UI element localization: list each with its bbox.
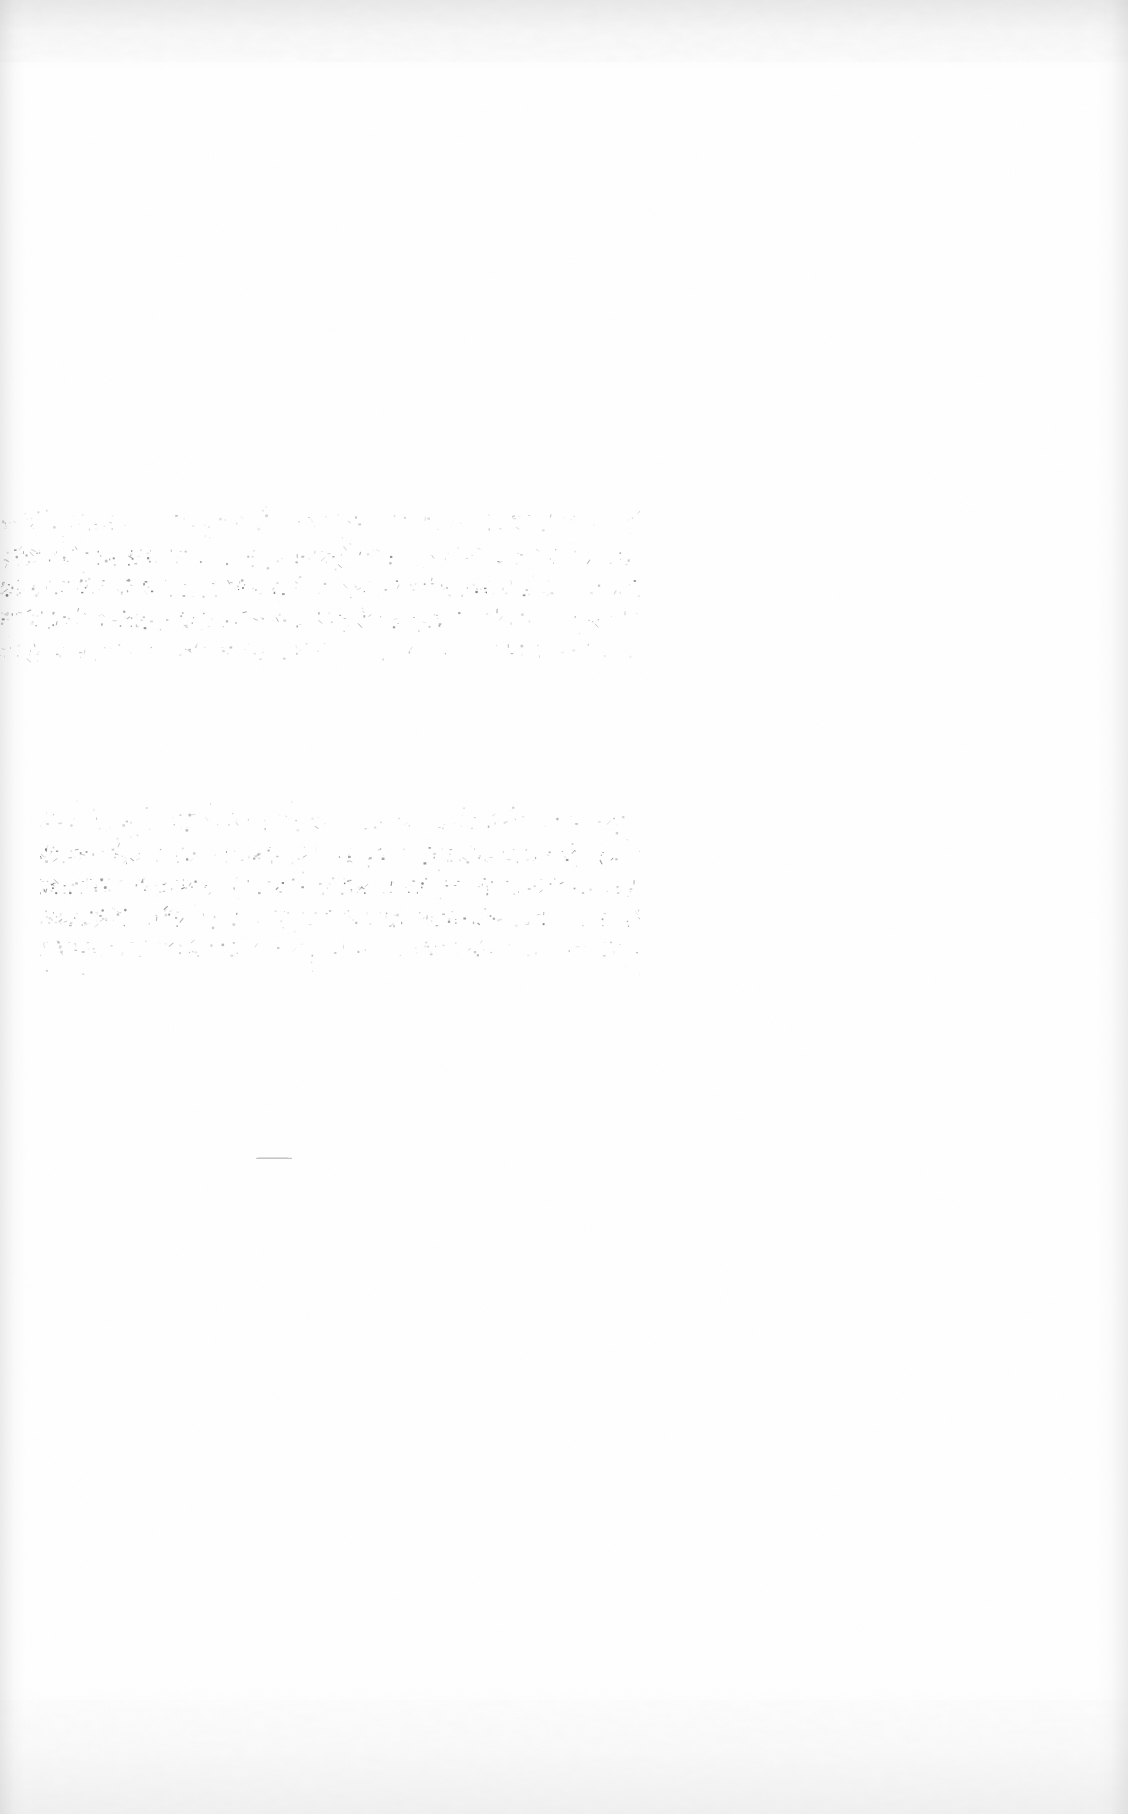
faded-text-band-upper [0,500,640,675]
page-edge-shade-right [1098,0,1128,1814]
dash-mark [256,1146,292,1149]
paper-grain [0,0,1128,1814]
page-edge-shade-top [0,0,1128,70]
page-edge-shade-bottom [0,1684,1128,1814]
page-edge-shade-left [0,0,26,1814]
faded-text-band-lower [40,800,640,975]
scanned-document-page [0,0,1128,1814]
